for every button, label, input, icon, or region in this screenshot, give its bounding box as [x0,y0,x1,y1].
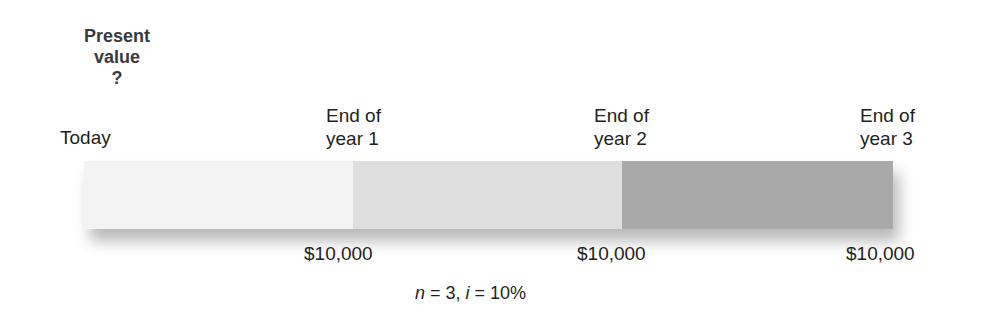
period-label-line2: year 3 [860,127,915,150]
present-value-line1: Present [62,26,172,47]
present-value-line2: value [62,47,172,68]
period-label-line1: End of [860,104,915,127]
period-label-year-1: End of year 1 [326,104,381,150]
period-label-line2: year 1 [326,127,381,150]
period-label-line1: End of [326,104,381,127]
cash-flow-year-1: $10,000 [304,243,373,265]
timeline-segment-year-1 [84,161,353,229]
cash-flow-year-3: $10,000 [846,243,915,265]
formula-n-variable: n [415,283,425,303]
cash-flow-year-2: $10,000 [577,243,646,265]
today-label: Today [60,127,111,149]
present-value-question: ? [62,68,172,89]
formula-label: n = 3, i = 10% [415,282,526,304]
period-label-year-3: End of year 3 [860,104,915,150]
formula-i-value: = 10% [470,283,527,303]
period-label-line1: End of [594,104,649,127]
timeline-segment-year-2 [353,161,622,229]
period-label-year-2: End of year 2 [594,104,649,150]
timeline-bar [84,161,893,229]
formula-n-value: = 3, [425,283,466,303]
period-label-line2: year 2 [594,127,649,150]
present-value-label: Present value ? [62,26,172,89]
timeline-segment-year-3 [622,161,893,229]
